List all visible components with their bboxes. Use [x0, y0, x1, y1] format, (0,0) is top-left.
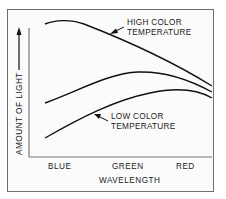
low-annotation-arrow-icon [94, 114, 108, 121]
high-annotation-arrow-icon [110, 27, 124, 34]
low-label-line2: TEMPERATURE [111, 122, 176, 131]
high-label-line2: TEMPERATURE [127, 28, 192, 37]
x-axis-label: WAVELENGTH [99, 176, 160, 185]
high-label-line1: HIGH COLOR [127, 18, 182, 27]
x-tick-blue: BLUE [48, 162, 71, 171]
y-axis-arrow-icon [17, 27, 22, 70]
low-label-line1: LOW COLOR [111, 112, 164, 121]
x-tick-red: RED [176, 162, 195, 171]
x-tick-green: GREEN [112, 162, 144, 171]
spectral-chart: HIGH COLOR TEMPERATURE LOW COLOR TEMPERA… [0, 0, 226, 199]
y-axis-label: AMOUNT OF LIGHT [15, 72, 24, 155]
